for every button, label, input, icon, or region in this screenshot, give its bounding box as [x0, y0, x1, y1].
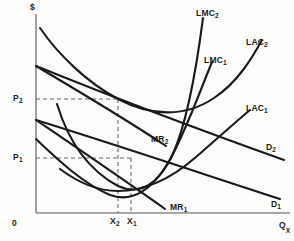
mr1-label: MR1: [170, 202, 187, 212]
y-axis-label: $: [30, 2, 35, 12]
x2-tick-label: X2: [110, 216, 120, 226]
p2-tick-label: P2: [13, 93, 23, 103]
lmc2-label: LMC2: [196, 8, 219, 18]
cost-curves-group: [36, 18, 262, 197]
x-axis-label: QX: [279, 220, 290, 232]
economics-diagram: $ QX 0 P2 P1 X2 X1 LMC2 LAC2 LMC1 LAC1 D…: [0, 0, 294, 241]
d1-curve: [36, 120, 280, 199]
lac2-label: LAC2: [246, 37, 268, 47]
x1-tick-label: X1: [127, 216, 137, 226]
d1-label: D1: [271, 199, 281, 209]
mr2-label: MR2: [151, 134, 168, 144]
lac1-label: LAC1: [246, 103, 268, 113]
p1-tick-label: P1: [13, 152, 23, 162]
origin-label: 0: [12, 218, 17, 228]
d2-label: D2: [266, 142, 276, 152]
lmc1-label: LMC1: [204, 55, 227, 65]
lac2-curve: [40, 28, 262, 112]
